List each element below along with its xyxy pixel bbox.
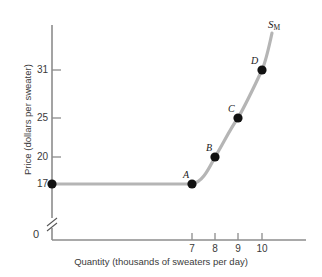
- x-tick-label-7: 7: [182, 243, 202, 254]
- data-point-a: [187, 179, 196, 188]
- x-tick-label-10: 10: [252, 243, 272, 254]
- supply-curve-chart: 31 25 20 17 7 8 9 10 0 A B C D SM Quanti…: [0, 0, 322, 277]
- chart-plot-area: [0, 0, 322, 277]
- point-label-a: A: [183, 169, 189, 180]
- x-tick-label-9: 9: [228, 243, 248, 254]
- curve-label-supply: SM: [268, 18, 280, 30]
- origin-label: 0: [33, 228, 39, 240]
- curve-label-subscript: M: [274, 23, 281, 32]
- point-label-c: C: [228, 103, 235, 114]
- y-axis-title: Price (dollars per sweater): [22, 64, 33, 175]
- curve-label-main: S: [268, 18, 274, 30]
- data-point-origin: [47, 179, 56, 188]
- point-label-b: B: [206, 142, 212, 153]
- x-tick-label-8: 8: [205, 243, 225, 254]
- data-point-b: [210, 152, 219, 161]
- y-tick-label-17: 17: [26, 178, 48, 189]
- x-axis-title: Quantity (thousands of sweaters per day): [0, 256, 322, 267]
- data-point-c: [233, 113, 242, 122]
- data-point-d: [257, 65, 266, 74]
- point-label-d: D: [251, 55, 258, 66]
